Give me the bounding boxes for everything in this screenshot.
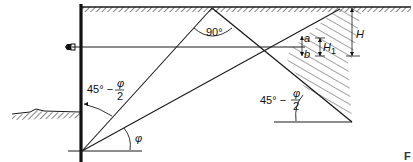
label-H1-sub: 1 — [331, 46, 336, 56]
label-a: a — [304, 32, 310, 44]
figure-marker: F — [404, 150, 411, 162]
label-H: H — [356, 28, 364, 40]
angle-arc-phi — [124, 128, 130, 150]
label-left-2: 2 — [117, 90, 123, 102]
label-90: 90° — [206, 26, 223, 38]
ground-surface-dredge-line — [12, 109, 80, 120]
label-phi: φ — [135, 132, 142, 144]
label-H1: H — [323, 41, 331, 53]
label-left-phi: φ — [117, 77, 124, 89]
label-right-angle: 45° − — [260, 94, 286, 106]
anchored-wall-diagram: 90° 45° − φ 2 φ 45° − φ 2 a b H 1 H F — [0, 0, 413, 162]
angle-arc-left — [84, 104, 112, 116]
label-right-2: 2 — [293, 100, 299, 112]
passive-failure-plane — [82, 8, 212, 151]
label-left-angle: 45° − — [87, 83, 113, 95]
label-right-phi: φ — [293, 87, 300, 99]
label-b: b — [304, 48, 310, 60]
